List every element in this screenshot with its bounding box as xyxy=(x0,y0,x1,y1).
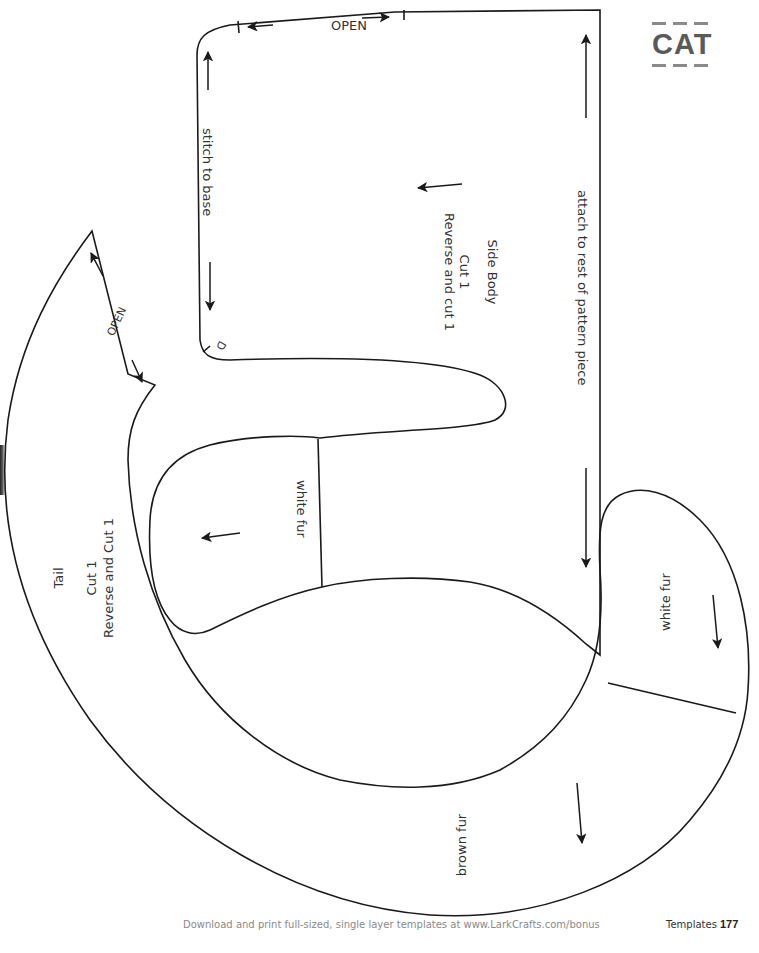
white-fur-grain-arrow-icon xyxy=(202,533,240,538)
side-body-cut: Cut 1 xyxy=(457,255,472,290)
attach-label: attach to rest of pattern piece xyxy=(575,190,590,385)
category-badge-text: CAT xyxy=(652,27,708,61)
tail-white-fur-label: white fur xyxy=(658,572,673,631)
side-body-open-label: OPEN xyxy=(331,18,367,33)
tail-brown-fur-label: brown fur xyxy=(454,813,469,876)
notch-d-mark xyxy=(203,346,210,352)
side-body-title: Side Body xyxy=(485,239,500,304)
badge-top-dashes xyxy=(652,22,708,25)
open-notch-left xyxy=(238,21,239,33)
tail-white-fur-arrow-icon xyxy=(713,595,718,648)
tail-title: Tail xyxy=(51,568,66,590)
notch-d-label: D xyxy=(213,339,229,353)
tail-cut: Cut 1 xyxy=(84,561,99,596)
page-number: 177 xyxy=(720,918,738,930)
side-body-outline xyxy=(150,10,600,655)
open-left-arrow-icon xyxy=(248,25,273,27)
tail-brown-fur-arrow-icon xyxy=(577,783,582,843)
badge-bottom-dashes xyxy=(652,64,708,67)
grain-arrow-icon xyxy=(418,184,462,188)
tail-fur-divider xyxy=(608,683,736,713)
tail-reverse: Reverse and Cut 1 xyxy=(101,518,116,638)
side-body-piece: OPEN stitch to base attach to rest of pa… xyxy=(150,10,600,655)
tail-open-down-arrow-icon xyxy=(132,360,142,382)
tail-piece: OPEN Tail Cut 1 Reverse and Cut 1 white … xyxy=(5,231,749,916)
pattern-template-page: OPEN stitch to base attach to rest of pa… xyxy=(0,0,759,953)
stitch-to-base-label: stitch to base xyxy=(200,128,215,216)
category-badge: CAT xyxy=(652,22,708,67)
footer-section-label: Templates xyxy=(666,919,717,930)
pattern-diagram: OPEN stitch to base attach to rest of pa… xyxy=(0,0,759,953)
side-body-white-fur-label: white fur xyxy=(294,480,309,539)
tail-open-label: OPEN xyxy=(104,305,129,338)
footer-download-note: Download and print full-sized, single la… xyxy=(183,919,600,930)
side-body-white-fur-divider xyxy=(318,439,322,587)
side-body-reverse: Reverse and cut 1 xyxy=(442,213,457,331)
